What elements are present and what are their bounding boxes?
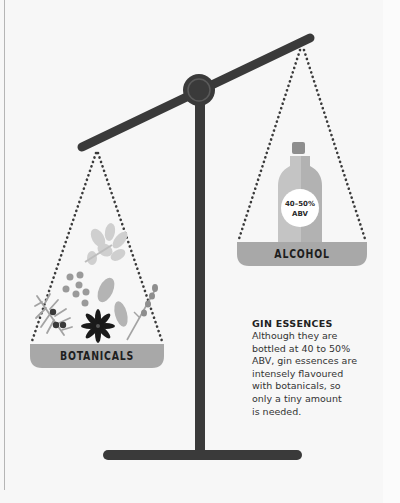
note-line: is needed. (252, 406, 372, 419)
page: 40–50% ABV ALCOHOL BOTANICALS GIN ESSENC… (0, 0, 400, 503)
abv-label: ABV (280, 209, 320, 219)
lavender-sprig-icon (127, 284, 158, 340)
note-line: with botanicals, so (252, 380, 372, 393)
scale-pole (195, 95, 205, 458)
star-anise-icon (81, 309, 115, 343)
abv-badge: 40–50% ABV (280, 199, 320, 219)
gin-essences-note: GIN ESSENCES Although they are bottled a… (252, 318, 372, 418)
note-line: ABV, gin essences are (252, 355, 372, 368)
botanicals-icons (35, 222, 158, 343)
note-line: intensely flavoured (252, 368, 372, 381)
note-line: bottled at 40 to 50% (252, 343, 372, 356)
note-line: Although they are (252, 330, 372, 343)
gin-bottle-icon (278, 142, 322, 243)
coriander-seeds-icon (63, 272, 90, 307)
botanicals-label: BOTANICALS (45, 349, 150, 363)
note-body: Although they are bottled at 40 to 50% A… (252, 330, 372, 418)
note-title: GIN ESSENCES (252, 318, 372, 329)
alcohol-label: ALCOHOL (251, 247, 352, 261)
abv-percentage: 40–50% (280, 199, 320, 209)
note-line: only a tiny amount (252, 393, 372, 406)
